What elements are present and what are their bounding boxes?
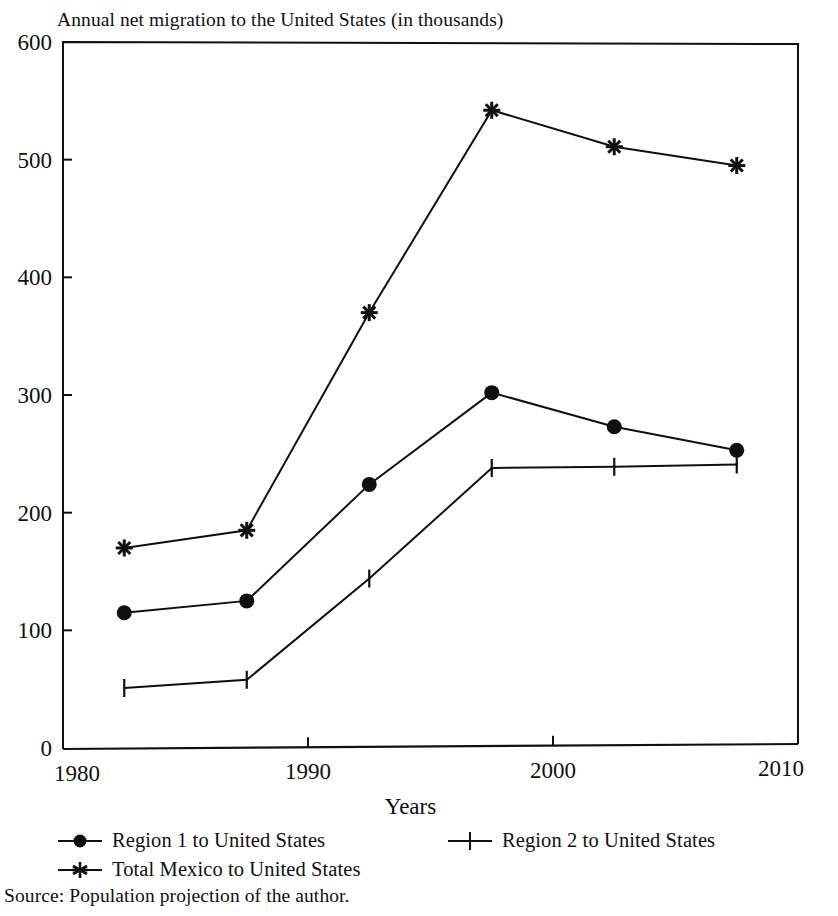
marker-plus-1992.5 xyxy=(368,570,370,588)
legend-row-2: Total Mexico to United States xyxy=(0,855,838,884)
marker-filled-circle-1997.5 xyxy=(484,385,499,400)
marker-asterisk-1992.5 xyxy=(361,304,378,321)
plot-frame xyxy=(63,42,798,749)
marker-asterisk-1982.5 xyxy=(116,539,133,556)
legend-row-1: Region 1 to United States Region 2 to Un… xyxy=(0,826,838,855)
chart-axes xyxy=(63,42,798,749)
marker-plus-2002.5 xyxy=(613,458,615,476)
chart-tick-labels: 01002003004005006001980199020002010 xyxy=(18,30,805,786)
marker-filled-circle-1987.5 xyxy=(239,593,254,608)
legend-label-total-mexico: Total Mexico to United States xyxy=(112,858,361,881)
asterisk-icon xyxy=(56,859,104,881)
y-tick-label-600: 600 xyxy=(18,30,53,55)
plus-icon xyxy=(446,830,494,852)
series-2 xyxy=(123,455,738,697)
y-tick-label-300: 300 xyxy=(18,383,53,408)
line-chart: 01002003004005006001980199020002010 Year… xyxy=(0,0,838,826)
legend-entry-region-2: Region 2 to United States xyxy=(446,826,715,855)
marker-filled-circle-1982.5 xyxy=(117,605,132,620)
series-1 xyxy=(117,385,745,620)
y-tick-label-500: 500 xyxy=(18,148,53,173)
y-tick-label-100: 100 xyxy=(18,618,53,643)
marker-plus-1997.5 xyxy=(491,459,493,477)
series-3 xyxy=(116,102,746,557)
chart-legend: Region 1 to United States Region 2 to Un… xyxy=(0,826,838,884)
marker-plus-1982.5 xyxy=(123,679,125,697)
chart-page: Annual net migration to the United State… xyxy=(0,0,838,916)
filled-circle-icon xyxy=(56,830,104,852)
source-note: Source: Population projection of the aut… xyxy=(4,885,350,907)
marker-filled-circle-1992.5 xyxy=(362,477,377,492)
marker-asterisk-1987.5 xyxy=(238,522,255,539)
x-tick-label-1990: 1990 xyxy=(285,759,331,784)
legend-label-region-2: Region 2 to United States xyxy=(502,829,715,852)
legend-label-region-1: Region 1 to United States xyxy=(112,829,325,852)
y-tick-label-200: 200 xyxy=(18,501,53,526)
chart-series xyxy=(116,102,746,697)
x-axis-title-label: Years xyxy=(385,794,436,819)
marker-asterisk-2002.5 xyxy=(606,138,623,155)
x-tick-label-2010: 2010 xyxy=(758,756,804,781)
series-line-1 xyxy=(124,393,737,613)
series-line-3 xyxy=(124,110,737,548)
y-tick-label-400: 400 xyxy=(18,265,53,290)
x-axis-title: Years xyxy=(385,794,436,819)
marker-asterisk-2007.5 xyxy=(728,157,745,174)
x-tick-label-2000: 2000 xyxy=(530,758,576,783)
marker-filled-circle-2002.5 xyxy=(607,419,622,434)
y-tick-label-0: 0 xyxy=(41,736,53,761)
marker-asterisk-1997.5 xyxy=(483,102,500,119)
legend-entry-total-mexico: Total Mexico to United States xyxy=(56,855,361,884)
marker-plus-1987.5 xyxy=(246,671,248,689)
marker-plus-2007.5 xyxy=(736,455,738,473)
x-tick-label-1980: 1980 xyxy=(54,761,100,786)
series-line-2 xyxy=(124,464,737,688)
legend-entry-region-1: Region 1 to United States xyxy=(56,826,325,855)
x-axis-line xyxy=(63,744,798,749)
